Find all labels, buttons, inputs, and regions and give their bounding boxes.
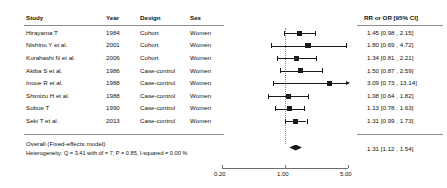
- x-axis-tick-label: 0.20: [214, 171, 226, 177]
- x-axis-tick: [348, 165, 349, 168]
- ci-cap-upper: [304, 106, 305, 111]
- summary-diamond: [289, 145, 302, 151]
- ci-cap-upper: [308, 94, 309, 99]
- ci-cap-upper: [322, 68, 323, 73]
- effect-marker: [298, 68, 303, 73]
- ci-arrow-right: [346, 81, 350, 85]
- effect-marker: [286, 94, 291, 99]
- effect-marker: [305, 43, 311, 49]
- ci-cap-lower: [277, 56, 278, 61]
- ci-cap-upper: [315, 31, 316, 36]
- ci-cap-upper: [316, 56, 317, 61]
- effect-marker: [287, 106, 292, 111]
- ci-cap-upper: [307, 119, 308, 124]
- ci-line: [273, 83, 346, 84]
- x-axis-tick: [285, 165, 286, 168]
- effect-marker: [327, 81, 332, 86]
- effect-marker: [293, 119, 298, 124]
- ci-cap-lower: [268, 94, 269, 99]
- ci-cap-upper: [346, 43, 347, 48]
- x-axis-line: [222, 168, 348, 169]
- x-axis-tick-label: 5.00: [340, 171, 352, 177]
- forest-graphic: 0.201.005.00: [0, 0, 447, 188]
- forest-plot: Study Year Design Sex RR or OR [95% CI] …: [0, 0, 447, 188]
- x-axis-tick-label: 1.00: [277, 171, 289, 177]
- effect-marker: [294, 56, 299, 61]
- ci-cap-lower: [271, 43, 272, 48]
- effect-marker: [297, 31, 302, 36]
- ci-cap-lower: [284, 31, 285, 36]
- ci-cap-lower: [285, 119, 286, 124]
- ci-cap-lower: [280, 68, 281, 73]
- ci-cap-lower: [273, 81, 274, 86]
- x-axis-tick: [222, 165, 223, 168]
- ci-cap-lower: [275, 106, 276, 111]
